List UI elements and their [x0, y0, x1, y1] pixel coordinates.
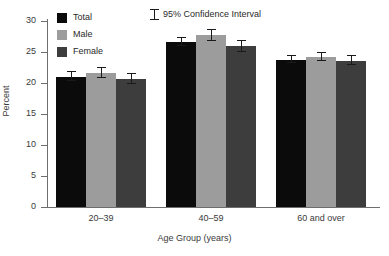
y-axis-tick-label: 0 — [6, 202, 36, 211]
error-bar-cap — [97, 67, 106, 68]
x-axis-label-group-2: 40–59 — [161, 213, 261, 223]
x-axis-line — [47, 207, 380, 208]
x-axis-label-group-3: 60 and over — [271, 213, 371, 223]
error-bar-cap — [177, 45, 186, 46]
y-axis-tick — [41, 83, 48, 84]
bar-total-group-1 — [56, 77, 86, 207]
y-axis-tick-label: 5 — [6, 171, 36, 180]
error-bar-cap — [67, 71, 76, 72]
y-axis-tick — [41, 52, 48, 53]
y-axis-tick-label: 25 — [6, 47, 36, 56]
error-bar-cap — [317, 60, 326, 61]
error-bar-cap — [207, 40, 216, 41]
bar-male-group-1 — [86, 73, 116, 207]
error-bar-cap — [127, 83, 136, 84]
bar-total-group-2 — [166, 42, 196, 207]
y-axis-tick-label: 20 — [6, 78, 36, 87]
x-axis-title: Age Group (years) — [0, 233, 389, 243]
error-bar-cap — [237, 40, 246, 41]
error-bar-cap — [67, 80, 76, 81]
error-bar-cap — [347, 64, 356, 65]
legend-label-male: Male — [73, 30, 93, 39]
y-axis-tick — [41, 176, 48, 177]
error-bar-icon — [150, 9, 159, 20]
bar-male-group-2 — [196, 35, 226, 207]
bar-female-group-3 — [336, 61, 366, 207]
error-bar-cap — [317, 52, 326, 53]
legend-swatch-total-icon — [57, 13, 67, 23]
legend-item-total: Total — [57, 9, 103, 26]
legend-swatch-male-icon — [57, 30, 67, 40]
y-axis-tick — [41, 207, 48, 208]
y-axis-tick-label: 15 — [6, 109, 36, 118]
legend: Total Male Female — [57, 9, 103, 60]
bar-female-group-2 — [226, 46, 256, 207]
y-axis-tick — [41, 114, 48, 115]
y-axis-tick-label: 10 — [6, 140, 36, 149]
confidence-interval-legend: 95% Confidence Interval — [150, 9, 261, 20]
error-bar-cap — [237, 51, 246, 52]
bar-female-group-1 — [116, 79, 146, 207]
bar-male-group-3 — [306, 57, 336, 207]
legend-label-female: Female — [73, 47, 103, 56]
error-bar-cap — [127, 73, 136, 74]
bar-total-group-3 — [276, 60, 306, 207]
error-bar-cap — [347, 55, 356, 56]
bar-chart: Percent 051015202530 20–3940–5960 and ov… — [0, 0, 389, 256]
error-bar-cap — [287, 62, 296, 63]
y-axis-tick — [41, 21, 48, 22]
legend-label-total: Total — [73, 13, 92, 22]
legend-swatch-female-icon — [57, 47, 67, 57]
error-bar-cap — [177, 37, 186, 38]
error-bar-cap — [287, 55, 296, 56]
x-axis-label-group-1: 20–39 — [51, 213, 151, 223]
error-bar-cap — [97, 77, 106, 78]
legend-item-female: Female — [57, 43, 103, 60]
y-axis-tick-label: 30 — [6, 16, 36, 25]
confidence-interval-label: 95% Confidence Interval — [163, 10, 261, 19]
legend-item-male: Male — [57, 26, 103, 43]
y-axis-tick — [41, 145, 48, 146]
error-bar-cap — [207, 29, 216, 30]
